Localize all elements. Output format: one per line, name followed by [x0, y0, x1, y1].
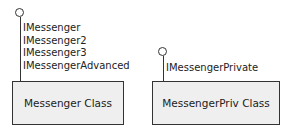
interface-circle-icon: [158, 47, 167, 56]
class-box-messenger: Messenger Class: [12, 81, 124, 125]
class-box-messengerpriv: MessengerPriv Class: [152, 81, 280, 125]
class-name: MessengerPriv Class: [162, 97, 270, 109]
interface-stem: [20, 17, 21, 81]
interface-circle-icon: [15, 8, 24, 17]
interface-label: IMessenger2: [23, 35, 130, 48]
interface-stem: [163, 56, 164, 81]
interface-list-messenger: IMessenger IMessenger2 IMessenger3 IMess…: [23, 22, 130, 72]
interface-label: IMessengerAdvanced: [23, 60, 130, 73]
interface-label: IMessengerPrivate: [166, 62, 258, 75]
class-name: Messenger Class: [24, 97, 112, 109]
interface-label: IMessenger3: [23, 47, 130, 60]
interface-list-messengerpriv: IMessengerPrivate: [166, 62, 258, 75]
interface-label: IMessenger: [23, 22, 130, 35]
